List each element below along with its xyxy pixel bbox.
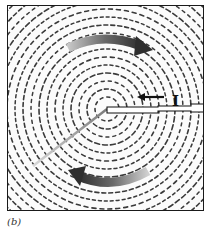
probe-rod	[33, 109, 107, 166]
iron-filings-figure: I	[7, 5, 204, 211]
wire-icon	[107, 104, 204, 113]
current-label: I	[172, 92, 179, 110]
figure-caption: (b)	[7, 216, 21, 227]
field-direction-arrow-top-icon	[68, 36, 153, 56]
